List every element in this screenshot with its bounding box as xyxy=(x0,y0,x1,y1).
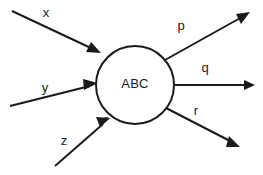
output-arrow-r: r xyxy=(166,103,240,147)
output-arrowhead-q xyxy=(244,80,255,90)
output-arrow-q: q xyxy=(174,60,255,90)
input-line-y xyxy=(10,86,90,106)
input-label-z: z xyxy=(61,133,68,148)
input-arrow-x: x xyxy=(12,5,101,53)
diagram-canvas: x y z ABC p q xyxy=(0,0,263,175)
output-label-p: p xyxy=(177,18,184,33)
process-node: ABC xyxy=(96,46,174,124)
black-box-diagram: x y z ABC p q xyxy=(0,0,263,175)
output-arrow-p: p xyxy=(165,12,250,60)
output-arrowhead-r xyxy=(226,136,240,147)
input-arrowhead-z-fill xyxy=(96,117,110,127)
output-line-r xyxy=(166,108,232,142)
process-label: ABC xyxy=(121,76,149,91)
input-label-y: y xyxy=(42,80,49,95)
output-label-q: q xyxy=(201,60,208,75)
output-arrowhead-p xyxy=(236,12,250,24)
input-line-x xyxy=(12,11,93,49)
output-label-r: r xyxy=(194,103,199,118)
input-arrowhead-x xyxy=(86,42,101,53)
input-arrow-y: y xyxy=(10,79,98,106)
input-label-x: x xyxy=(43,5,50,20)
input-arrow-z: z xyxy=(55,117,110,166)
